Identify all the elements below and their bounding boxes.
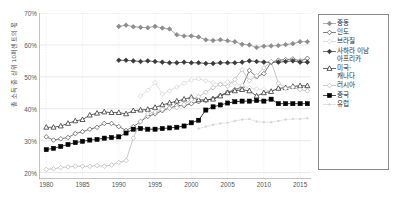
data-point bbox=[109, 135, 113, 139]
legend-label: 중국 bbox=[337, 91, 349, 99]
data-point bbox=[256, 121, 258, 123]
data-point bbox=[124, 58, 129, 63]
legend-item[interactable]: 중동 bbox=[322, 19, 386, 27]
data-point bbox=[276, 81, 281, 86]
legend-item[interactable]: 사하라 이남아프리카 bbox=[322, 47, 386, 63]
legend-marker-icon bbox=[322, 19, 337, 27]
data-point bbox=[95, 125, 100, 130]
legend-item[interactable]: 유럽 bbox=[322, 100, 386, 108]
legend-label: 인도 bbox=[337, 28, 349, 36]
data-point bbox=[124, 23, 129, 28]
data-point bbox=[160, 26, 165, 31]
data-point bbox=[211, 80, 216, 85]
x-axis-ticks: 19801985199019952000200520102015 bbox=[39, 181, 311, 195]
data-point bbox=[254, 87, 259, 92]
data-point bbox=[116, 124, 121, 129]
legend-marker-icon bbox=[322, 91, 337, 99]
data-point bbox=[247, 43, 252, 48]
data-point bbox=[225, 80, 230, 85]
data-point bbox=[160, 60, 165, 65]
data-point bbox=[327, 84, 332, 89]
data-point bbox=[66, 165, 71, 170]
data-point bbox=[298, 39, 303, 44]
y-tick-label: 20% bbox=[15, 170, 37, 177]
series-line bbox=[199, 118, 308, 128]
data-point bbox=[204, 90, 209, 95]
data-point bbox=[102, 121, 107, 126]
data-point bbox=[247, 99, 251, 103]
series-러시아 bbox=[44, 59, 310, 172]
legend-item[interactable]: 중국 bbox=[322, 91, 386, 99]
data-point bbox=[270, 121, 272, 123]
data-point bbox=[87, 127, 92, 132]
data-point bbox=[196, 61, 201, 66]
series-유럽 bbox=[198, 117, 309, 129]
data-point bbox=[160, 126, 164, 130]
data-point bbox=[211, 85, 216, 90]
legend-label: 미국·캐나다 bbox=[337, 64, 355, 80]
data-point bbox=[240, 99, 244, 103]
data-point bbox=[146, 127, 150, 131]
data-point bbox=[305, 83, 310, 88]
x-tick-label: 2005 bbox=[220, 181, 234, 188]
data-point bbox=[277, 120, 279, 122]
legend-label: 브라질 bbox=[337, 37, 355, 45]
legend-label: 러시아 bbox=[337, 81, 355, 89]
legend-item[interactable]: 브라질 bbox=[322, 37, 386, 45]
legend-item[interactable]: 러시아 bbox=[322, 81, 386, 89]
data-point bbox=[138, 25, 143, 30]
x-tick-label: 1985 bbox=[75, 181, 89, 188]
chart-root: 총 소득 중 상위 10퍼센트의 몫 20%30%40%50%60%70% 19… bbox=[0, 0, 393, 204]
data-point bbox=[73, 131, 78, 136]
data-point bbox=[233, 100, 237, 104]
data-point bbox=[117, 135, 121, 139]
legend-marker-icon bbox=[322, 100, 337, 108]
y-tick-label: 70% bbox=[15, 10, 37, 17]
data-point bbox=[175, 85, 180, 90]
data-point bbox=[254, 45, 259, 50]
data-point bbox=[116, 24, 121, 29]
data-point bbox=[211, 105, 215, 109]
legend-item[interactable]: 인도 bbox=[322, 28, 386, 36]
data-point bbox=[51, 166, 56, 171]
legend-marker-icon bbox=[322, 64, 337, 72]
data-point bbox=[196, 76, 201, 81]
legend-item[interactable]: 미국·캐나다 bbox=[322, 64, 386, 80]
data-point bbox=[205, 126, 207, 128]
data-point bbox=[44, 148, 48, 152]
data-point bbox=[146, 59, 151, 64]
data-point bbox=[255, 98, 259, 102]
data-point bbox=[51, 146, 55, 150]
data-point bbox=[167, 126, 171, 130]
data-point bbox=[247, 59, 252, 64]
data-point bbox=[285, 119, 287, 121]
data-point bbox=[225, 61, 230, 66]
data-point bbox=[233, 61, 238, 66]
y-tick-label: 40% bbox=[15, 106, 37, 113]
data-point bbox=[73, 164, 78, 169]
data-point bbox=[138, 126, 142, 130]
data-point bbox=[182, 60, 187, 65]
data-point bbox=[327, 93, 331, 97]
data-point bbox=[116, 160, 121, 165]
data-point bbox=[327, 30, 332, 35]
data-point bbox=[218, 103, 222, 107]
data-point bbox=[291, 41, 296, 46]
data-point bbox=[234, 120, 236, 122]
data-point bbox=[284, 102, 288, 106]
data-point bbox=[262, 60, 267, 65]
data-point bbox=[262, 44, 267, 49]
series-line bbox=[46, 62, 307, 170]
data-point bbox=[153, 24, 158, 29]
data-point bbox=[240, 60, 245, 65]
legend-label: 중동 bbox=[337, 19, 349, 27]
data-point bbox=[291, 102, 295, 106]
data-point bbox=[95, 163, 100, 168]
data-point bbox=[269, 97, 273, 101]
data-point bbox=[305, 102, 309, 106]
y-tick-label: 50% bbox=[15, 74, 37, 81]
data-point bbox=[327, 49, 332, 54]
data-point bbox=[225, 101, 229, 105]
series-사하라 이남 아프리카 bbox=[116, 58, 309, 66]
data-point bbox=[153, 127, 157, 131]
